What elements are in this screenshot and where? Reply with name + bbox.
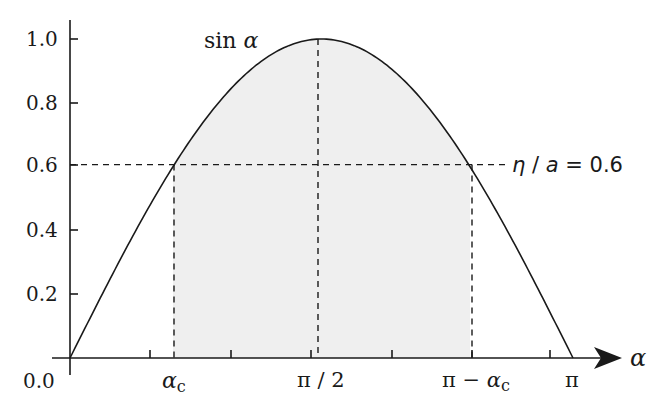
x-tick-label-pi: π <box>565 368 579 392</box>
x-axis-label: α <box>630 344 646 372</box>
y-tick-label-0.6: 0.6 <box>26 153 58 177</box>
x-tick-label-pi-minus-alpha-c: π − αc <box>442 368 510 395</box>
y-tick-label-0.8: 0.8 <box>26 91 58 115</box>
y-tick-label-1.0: 1.0 <box>26 27 58 51</box>
x-tick-label-alpha-c: αc <box>162 368 186 396</box>
y-tick-label-0.4: 0.4 <box>26 218 58 242</box>
threshold-label: η / a = 0.6 <box>512 153 623 177</box>
y-ticks <box>70 39 78 294</box>
curve-label: sin α <box>204 28 259 53</box>
shaded-region <box>173 39 470 358</box>
sine-chart: 1.0 0.8 0.6 0.4 0.2 0.0 sin α η / a = 0.… <box>0 0 664 406</box>
y-tick-label-0.2: 0.2 <box>26 282 58 306</box>
x-tick-label-pi-half: π / 2 <box>297 368 345 392</box>
y-tick-label-0.0: 0.0 <box>23 369 55 393</box>
